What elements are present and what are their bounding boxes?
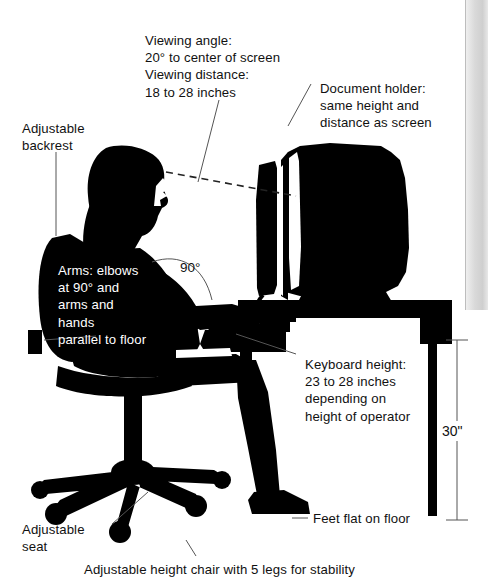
caster [185,495,207,517]
monitor-side-gap [278,165,283,296]
annotation-desk-height: 30" [441,421,464,441]
page-edge-shadow [466,0,488,310]
annotation-feet-flat: Feet flat on floor [313,510,410,527]
leader-viewing-angle [198,100,219,182]
annotation-keyboard-height: Keyboard height: 23 to 28 inches dependi… [305,356,410,425]
annotation-document-holder: Document holder: same height and distanc… [320,80,432,132]
desk-leg [428,344,437,516]
annotation-viewing-angle: Viewing angle: 20° to center of screen V… [145,32,280,101]
caster [31,481,49,499]
ergonomics-diagram: Viewing angle: 20° to center of screen V… [0,0,488,586]
person-lower-leg [236,360,280,500]
monitor-group [256,143,409,320]
annotation-elbow-angle: 90° [180,260,200,275]
caster [213,471,231,489]
annotation-arms: Arms: elbows at 90° and arms and hands p… [58,262,146,348]
leader-chair-caption [186,540,196,556]
monitor-screen-glass [289,152,301,290]
annotation-adjustable-seat: Adjustable seat [22,521,85,555]
annotation-adjustable-backrest: Adjustable backrest [22,120,85,154]
backrest-knob [28,330,42,354]
person-foot [248,490,310,514]
leader-document-holder [288,84,311,126]
annotation-chair-caption: Adjustable height chair with 5 legs for … [84,561,355,578]
document-holder [256,161,277,296]
chair-base-hub [111,459,155,485]
